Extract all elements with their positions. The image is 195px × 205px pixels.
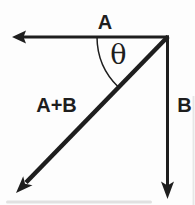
vector-diagram: A θ A+B B xyxy=(0,0,195,205)
scan-artifact-right xyxy=(193,96,195,205)
scan-artifact-bottom xyxy=(6,201,152,204)
angle-theta-label: θ xyxy=(110,39,126,70)
vector-b-label: B xyxy=(177,94,191,116)
vector-diagram-svg: A θ A+B B xyxy=(0,0,195,205)
vector-a-label: A xyxy=(98,11,112,33)
resultant-label: A+B xyxy=(36,94,77,116)
